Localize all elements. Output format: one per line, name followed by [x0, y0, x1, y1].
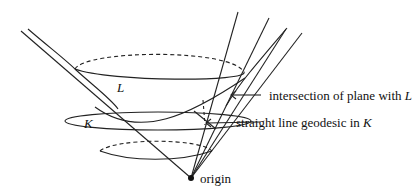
- label-L: L: [117, 81, 124, 94]
- label-intersection-text: intersection of plane with: [269, 88, 405, 103]
- label-intersection: intersection of plane with L: [269, 89, 412, 102]
- label-geodesic-text: straight line geodesic in: [236, 115, 363, 130]
- label-geodesic: straight line geodesic in K: [236, 116, 372, 129]
- origin-point: [188, 175, 194, 181]
- plane-line-3: [191, 29, 286, 178]
- cone-right-edge: [191, 33, 302, 178]
- ellipse-small-front: [100, 151, 212, 159]
- hyperboloid-left-branch: [28, 29, 118, 109]
- ellipse-L-back: [75, 54, 244, 72]
- label-origin: origin: [200, 172, 231, 185]
- cone-left-edge: [21, 31, 191, 178]
- ellipse-L-front: [75, 69, 244, 79]
- label-intersection-var: L: [405, 88, 412, 103]
- label-geodesic-var: K: [363, 115, 372, 130]
- ellipse-small-back: [100, 141, 212, 151]
- ellipse-mid-front: [83, 135, 228, 140]
- label-K: K: [84, 117, 93, 130]
